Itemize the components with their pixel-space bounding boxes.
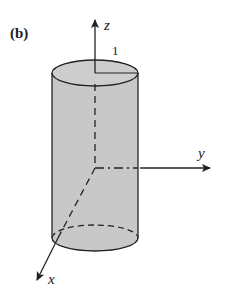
y-axis-label: y [196, 145, 205, 161]
z-axis-label: z [103, 17, 110, 33]
radius-label: 1 [112, 43, 119, 58]
x-axis-label: x [47, 271, 55, 287]
cylinder-diagram: (b) z 1 y x [0, 0, 226, 292]
panel-label: (b) [10, 25, 28, 42]
